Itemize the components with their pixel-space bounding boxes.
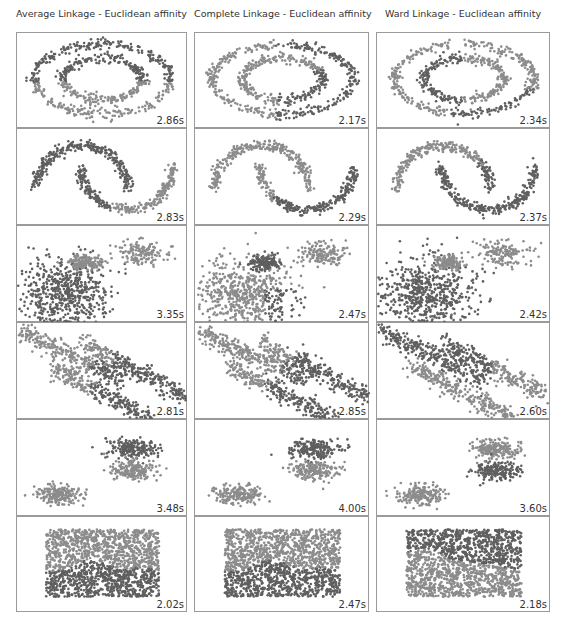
timing-label: 2.18s: [520, 599, 547, 611]
scatter-panel: 2.47s: [194, 516, 369, 612]
timing-label: 2.34s: [520, 115, 547, 127]
scatter-panel: 2.18s: [376, 516, 550, 612]
scatter-panel: 2.37s: [376, 128, 550, 225]
timing-label: 2.42s: [520, 309, 547, 321]
col-title-complete: Complete Linkage - Euclidean affinity: [194, 8, 369, 24]
scatter-panel: 2.83s: [16, 128, 187, 225]
timing-label: 2.29s: [339, 212, 366, 224]
scatter-panel: 2.85s: [194, 322, 369, 419]
scatter-panel: 3.35s: [16, 225, 187, 322]
timing-label: 2.83s: [157, 212, 184, 224]
scatter-panel: 2.81s: [16, 322, 187, 419]
timing-label: 3.48s: [157, 503, 184, 515]
timing-label: 3.35s: [157, 309, 184, 321]
timing-label: 2.81s: [157, 406, 184, 418]
scatter-panel: 2.86s: [16, 32, 187, 128]
scatter-panel: 3.60s: [376, 419, 550, 516]
scatter-panel: 3.48s: [16, 419, 187, 516]
timing-label: 2.86s: [157, 115, 184, 127]
scatter-panel: 2.17s: [194, 32, 369, 128]
scatter-panel: 2.29s: [194, 128, 369, 225]
timing-label: 2.17s: [339, 115, 366, 127]
scatter-panel: 2.02s: [16, 516, 187, 612]
timing-label: 2.47s: [339, 599, 366, 611]
scatter-panel: 4.00s: [194, 419, 369, 516]
timing-label: 2.47s: [339, 309, 366, 321]
timing-label: 2.60s: [520, 406, 547, 418]
scatter-panel: 2.34s: [376, 32, 550, 128]
col-title-average: Average Linkage - Euclidean affinity: [16, 8, 187, 24]
timing-label: 4.00s: [339, 503, 366, 515]
scatter-panel: 2.60s: [376, 322, 550, 419]
timing-label: 2.85s: [339, 406, 366, 418]
scatter-panel: 2.47s: [194, 225, 369, 322]
timing-label: 2.37s: [520, 212, 547, 224]
scatter-panel: 2.42s: [376, 225, 550, 322]
timing-label: 3.60s: [520, 503, 547, 515]
timing-label: 2.02s: [157, 599, 184, 611]
col-title-ward: Ward Linkage - Euclidean affinity: [376, 8, 550, 24]
